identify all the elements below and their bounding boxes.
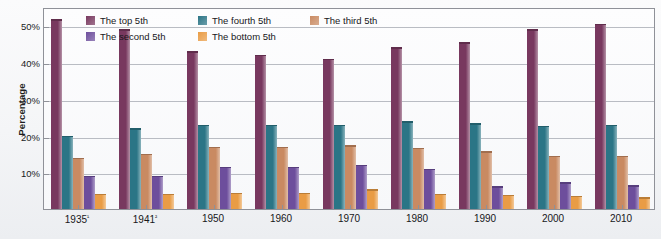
bar-top-edge (367, 189, 378, 191)
x-tick-label: 2000 (542, 213, 564, 224)
bar-top-edge (198, 125, 209, 127)
bar (470, 123, 481, 209)
bar-top-edge (402, 121, 413, 123)
legend-swatch-icon (198, 16, 207, 25)
legend-swatch-icon (310, 16, 319, 25)
bar (345, 145, 356, 209)
bar (62, 136, 73, 209)
bar-top-edge (141, 154, 152, 156)
x-tick-mark (214, 205, 215, 209)
bar-top-edge (538, 126, 549, 128)
legend-label: The third 5th (324, 15, 377, 26)
bar-top-edge (277, 147, 288, 149)
x-tick-mark (418, 205, 419, 209)
bar (198, 125, 209, 209)
bar (459, 42, 470, 209)
bar (266, 125, 277, 209)
legend-item[interactable]: The top 5th (86, 13, 198, 27)
bar-top-edge (391, 47, 402, 49)
legend-label: The fourth 5th (212, 15, 271, 26)
bar (435, 194, 446, 209)
x-label-footnote-marker: ² (155, 213, 157, 220)
x-tick-label: 1980 (406, 213, 428, 224)
bar-top-edge (459, 42, 470, 44)
bar-top-edge (209, 147, 220, 149)
bar-group (593, 9, 651, 209)
x-tick-label: 1941² (133, 213, 157, 225)
legend-swatch-icon (86, 32, 95, 41)
bar-top-edge (470, 123, 481, 125)
bar (84, 176, 95, 209)
bar-top-edge (424, 169, 435, 171)
bar-top-edge (606, 125, 617, 127)
legend-item[interactable]: The third 5th (310, 13, 422, 27)
x-tick-label: 2010 (610, 213, 632, 224)
bar-top-edge (334, 125, 345, 127)
legend-label: The second 5th (100, 31, 166, 42)
bar (617, 156, 628, 209)
y-tick-label: 50% (4, 21, 40, 32)
y-axis-tick-labels: 10%20%30%40%50% (0, 8, 40, 210)
x-tick-mark (622, 205, 623, 209)
x-tick-mark (78, 205, 79, 209)
bar (119, 29, 130, 209)
bar (391, 47, 402, 209)
legend-empty-cell (310, 29, 422, 43)
bar (560, 182, 571, 209)
x-tick-mark (554, 205, 555, 209)
bar-top-edge (503, 195, 514, 197)
bar (639, 197, 650, 209)
x-label-footnote-marker: ¹ (87, 213, 89, 220)
bar-top-edge (62, 136, 73, 138)
legend-swatch-icon (86, 16, 95, 25)
bar (95, 194, 106, 209)
bar-top-edge (323, 59, 334, 61)
bar-top-edge (435, 194, 446, 196)
bar-top-edge (255, 55, 266, 57)
bar (220, 167, 231, 209)
x-tick-mark (350, 205, 351, 209)
x-tick-mark (282, 205, 283, 209)
bar (424, 169, 435, 209)
bar (163, 194, 174, 209)
bar (73, 158, 84, 209)
bar (538, 126, 549, 209)
bar-top-edge (639, 197, 650, 199)
y-tick-label: 30% (4, 94, 40, 105)
bar-top-edge (595, 24, 606, 26)
bar-top-edge (163, 194, 174, 196)
bar (231, 193, 242, 209)
x-tick-label: 1990 (474, 213, 496, 224)
bar (402, 121, 413, 209)
legend-item[interactable]: The second 5th (86, 29, 198, 43)
bar-top-edge (220, 167, 231, 169)
bar (323, 59, 334, 209)
y-tick-label: 20% (4, 131, 40, 142)
bar (356, 165, 367, 209)
legend-swatch-icon (198, 32, 207, 41)
legend-label: The bottom 5th (212, 31, 276, 42)
bar-top-edge (571, 196, 582, 198)
bar (141, 154, 152, 209)
y-tick-label: 40% (4, 58, 40, 69)
bar (152, 176, 163, 209)
bar (334, 125, 345, 209)
bar (367, 189, 378, 209)
chart-legend: The top 5thThe fourth 5thThe third 5thTh… (86, 13, 422, 43)
bar-top-edge (560, 182, 571, 184)
bar-top-edge (527, 29, 538, 31)
bar (277, 147, 288, 209)
legend-item[interactable]: The bottom 5th (198, 29, 310, 43)
chart-screenshot: Percentage 10%20%30%40%50% 1935¹1941²195… (0, 0, 661, 239)
bar-top-edge (95, 194, 106, 196)
bar-top-edge (266, 125, 277, 127)
x-axis-tick-labels: 1935¹1941²1950196019701980199020002010 (43, 213, 655, 233)
legend-item[interactable]: The fourth 5th (198, 13, 310, 27)
x-tick-mark (146, 205, 147, 209)
bar-top-edge (481, 151, 492, 153)
x-tick-label: 1970 (338, 213, 360, 224)
bar (288, 167, 299, 209)
bar (606, 125, 617, 209)
bar-top-edge (130, 128, 141, 130)
bar-top-edge (356, 165, 367, 167)
